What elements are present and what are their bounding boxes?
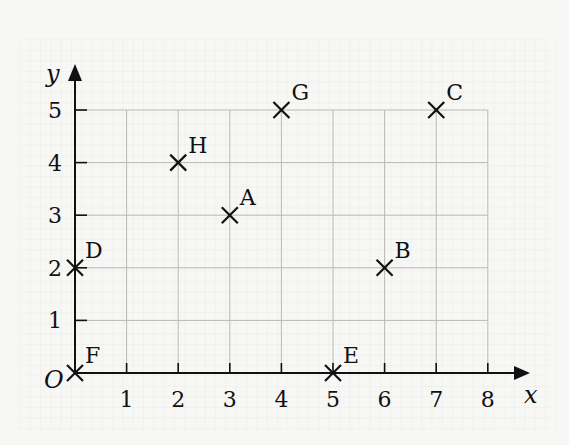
point-label: D — [85, 238, 103, 263]
data-point-d: D — [67, 238, 103, 276]
x-axis-label: x — [524, 381, 538, 409]
x-tick-label: 7 — [429, 387, 443, 412]
data-point-b: B — [377, 238, 411, 276]
point-label: B — [395, 238, 411, 263]
y-axis-label: y — [45, 60, 60, 88]
coordinate-plane: xyO 1234567812345 ABCDEFGH — [0, 0, 569, 445]
x-tick-label: 6 — [378, 387, 392, 412]
point-label: G — [291, 80, 309, 105]
y-tick-label: 5 — [48, 98, 62, 123]
point-label: A — [239, 185, 257, 210]
y-tick-label: 2 — [48, 256, 62, 281]
major-grid — [75, 110, 488, 373]
point-label: C — [446, 80, 463, 105]
data-point-g: G — [273, 80, 309, 118]
data-point-h: H — [170, 133, 207, 171]
x-tick-label: 2 — [171, 387, 185, 412]
minor-grid — [20, 40, 556, 430]
origin-label: O — [44, 366, 64, 394]
y-tick-label: 3 — [48, 203, 62, 228]
data-point-e: E — [325, 343, 359, 381]
x-axis-arrow-icon — [514, 366, 530, 380]
data-point-f: F — [67, 343, 100, 381]
x-tick-label: 3 — [223, 387, 237, 412]
y-axis-arrow-icon — [68, 64, 82, 81]
data-point-a: A — [222, 185, 257, 223]
point-label: H — [188, 133, 207, 158]
point-label: E — [343, 343, 359, 368]
y-tick-label: 1 — [48, 308, 62, 333]
y-tick-label: 4 — [48, 151, 62, 176]
x-tick-label: 1 — [120, 387, 134, 412]
x-tick-label: 8 — [481, 387, 495, 412]
coordinate-grid-figure: xyO 1234567812345 ABCDEFGH — [0, 0, 569, 445]
point-label: F — [85, 343, 100, 368]
x-tick-label: 4 — [274, 387, 288, 412]
axes: xyO — [44, 60, 538, 409]
x-tick-label: 5 — [326, 387, 340, 412]
data-point-c: C — [428, 80, 463, 118]
